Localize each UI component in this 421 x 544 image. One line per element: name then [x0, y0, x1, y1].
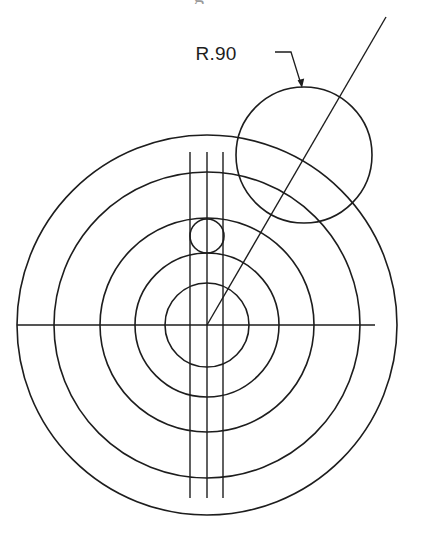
technical-drawing-canvas: g R.90: [0, 0, 421, 544]
r90-leader-line: [275, 52, 300, 81]
radius-dimension-label: R.90: [196, 43, 237, 64]
r90-circle: [236, 87, 372, 223]
drawing-svg: R.90: [0, 0, 421, 544]
